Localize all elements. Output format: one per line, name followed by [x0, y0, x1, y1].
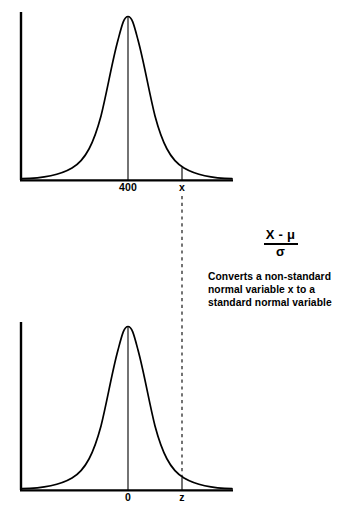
standardization-formula: X - μ σ — [208, 228, 353, 259]
annotation-block: X - μ σ Converts a non-standard normal v… — [208, 228, 353, 309]
bottom-chart-value-tick-label: z — [179, 491, 184, 503]
bottom-chart — [20, 322, 233, 490]
caption-line-3: standard normal variable — [208, 296, 353, 309]
top-chart-curve — [22, 17, 232, 179]
top-chart — [20, 12, 233, 180]
figure-canvas: 400 x 0 z X - μ σ Converts a non-standar… — [0, 0, 355, 520]
top-chart-mean-tick-label: 400 — [119, 181, 137, 193]
formula-denominator: σ — [208, 245, 353, 259]
bottom-chart-mean-tick-label: 0 — [125, 491, 131, 503]
annotation-caption: Converts a non-standard normal variable … — [208, 270, 353, 310]
caption-line-1: Converts a non-standard — [208, 270, 353, 283]
top-chart-value-tick-label: x — [179, 181, 185, 193]
formula-numerator: X - μ — [208, 228, 353, 242]
caption-line-2: normal variable x to a — [208, 283, 353, 296]
bottom-chart-curve — [22, 327, 232, 489]
